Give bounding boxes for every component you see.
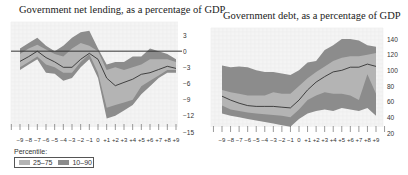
x-tick-label: +4	[129, 137, 137, 143]
x-tick-label: +1	[103, 137, 111, 143]
x-tick-label: +6	[347, 137, 355, 143]
x-tick-label: +7	[355, 137, 363, 143]
x-tick-label: −4	[261, 137, 269, 143]
x-tick-label: +5	[138, 137, 146, 143]
x-tick-label: +1	[304, 137, 312, 143]
x-tick-label: −3	[270, 137, 278, 143]
x-tick-label: +3	[121, 137, 129, 143]
net-lending-chart: 30−3−6−9−12−15−9−8−7−6−5−4−3−2−10+1+2+3+…	[11, 22, 194, 143]
legend-title: Percentile:	[14, 148, 47, 155]
x-tick-label: +4	[330, 137, 338, 143]
y-tick-label: −9	[183, 96, 191, 103]
y-tick-label: 3	[183, 32, 187, 39]
x-tick-label: −3	[69, 137, 77, 143]
y-tick-label: −12	[183, 112, 194, 119]
x-tick-label: −7	[34, 137, 42, 143]
x-tick-label: −6	[43, 137, 51, 143]
y-tick-label: 120	[387, 51, 398, 58]
x-tick-label: −2	[77, 137, 85, 143]
legend: 25–75 10–90	[14, 157, 94, 168]
legend-label: 25–75	[33, 159, 52, 166]
x-tick-label: −9	[17, 137, 25, 143]
x-tick-label: +2	[112, 137, 120, 143]
charts-canvas: 30−3−6−9−12−15−9−8−7−6−5−4−3−2−10+1+2+3+…	[0, 0, 408, 175]
y-tick-label: −15	[183, 129, 194, 136]
x-tick-label: +3	[321, 137, 329, 143]
x-tick-label: −1	[86, 137, 94, 143]
y-tick-label: −3	[183, 64, 191, 71]
y-tick-label: 40	[387, 114, 395, 121]
legend-swatch-inner	[19, 160, 30, 165]
y-tick-label: 100	[387, 67, 398, 74]
debt-chart: 14012010080604020−9−8−7−6−5−4−3−2−10+1+2…	[211, 28, 398, 143]
x-tick-label: −7	[236, 137, 244, 143]
x-tick-label: −6	[244, 137, 252, 143]
y-tick-label: 140	[387, 36, 398, 43]
x-tick-label: −8	[227, 137, 235, 143]
x-tick-label: +6	[147, 137, 155, 143]
x-tick-label: −5	[51, 137, 59, 143]
y-tick-label: 20	[387, 130, 395, 137]
x-tick-label: −4	[60, 137, 68, 143]
y-tick-label: 0	[183, 48, 187, 55]
y-tick-label: 80	[387, 83, 395, 90]
legend-item-25-75: 25–75	[19, 159, 52, 166]
legend-item-10-90: 10–90	[58, 159, 91, 166]
x-tick-label: +8	[364, 137, 372, 143]
x-tick-label: +5	[338, 137, 346, 143]
x-tick-label: +9	[373, 137, 381, 143]
y-tick-label: 60	[387, 98, 395, 105]
x-tick-label: −8	[25, 137, 33, 143]
x-tick-label: +8	[164, 137, 172, 143]
x-tick-label: 0	[96, 137, 100, 143]
legend-label: 10–90	[72, 159, 91, 166]
legend-swatch-outer	[58, 160, 69, 165]
x-tick-label: −2	[278, 137, 286, 143]
x-tick-label: 0	[297, 137, 301, 143]
x-tick-label: +7	[155, 137, 163, 143]
x-tick-label: −5	[253, 137, 261, 143]
x-tick-label: +9	[173, 137, 181, 143]
x-tick-label: −9	[219, 137, 227, 143]
x-tick-label: +2	[313, 137, 321, 143]
y-tick-label: −6	[183, 80, 191, 87]
x-tick-label: −1	[287, 137, 295, 143]
